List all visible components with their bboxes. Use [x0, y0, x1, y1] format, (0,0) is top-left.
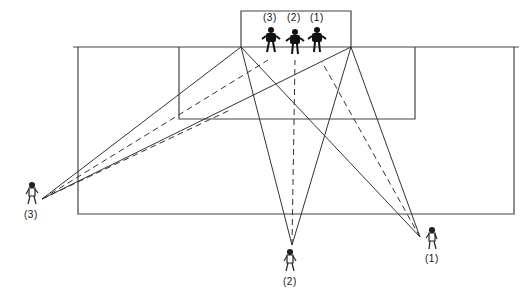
goalkeeper-1-icon [308, 27, 326, 52]
attacker-1-icon [426, 228, 437, 250]
goalkeeper-2-label: (2) [287, 12, 301, 23]
goalkeeper-figures [262, 27, 326, 54]
attacker-2-icon [284, 250, 296, 272]
attacker-3-icon [26, 183, 38, 205]
goalkeeper-2-icon [286, 29, 304, 54]
goal-area [179, 47, 415, 119]
attacker-2-label: (2) [283, 276, 297, 287]
goalkeeper-3-icon [262, 27, 280, 52]
goalkeeper-3-label: (3) [263, 12, 277, 23]
attacker-1-label: (1) [425, 253, 439, 264]
attacker-3-label: (3) [24, 209, 38, 220]
goalkeeper-1-label: (1) [310, 12, 324, 23]
penalty-area [78, 47, 514, 214]
pitch-diagram [0, 0, 531, 299]
